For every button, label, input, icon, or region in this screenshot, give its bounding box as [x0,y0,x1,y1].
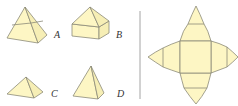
solid-b [72,7,109,39]
net-right-face [211,41,238,73]
solid-c [7,77,43,98]
net-base-square [180,41,211,73]
net [148,6,238,104]
net-left-face [148,41,180,73]
solid-a [7,7,47,43]
net-top-face [180,6,211,41]
net-bottom-face [180,73,211,104]
label-c: C [51,88,58,99]
solid-d [73,66,104,99]
label-b: B [116,29,122,40]
label-a: A [53,29,61,40]
diagram-canvas: A B C D [0,0,238,106]
label-d: D [116,88,125,99]
